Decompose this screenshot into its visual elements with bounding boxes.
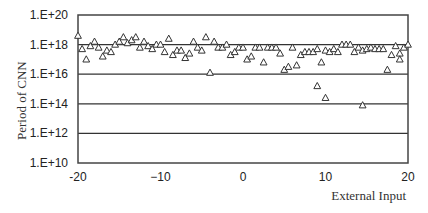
horizontal-gridlines [78, 45, 408, 134]
triangle-marker-icon [120, 34, 127, 40]
triangle-marker-icon [359, 102, 366, 108]
triangle-marker-icon [165, 35, 172, 41]
triangle-marker-icon [186, 50, 193, 56]
y-tick-label: 1.E+18 [30, 38, 69, 52]
triangle-marker-icon [293, 62, 300, 68]
triangle-marker-icon [202, 34, 209, 40]
triangle-marker-icon [314, 45, 321, 51]
triangle-marker-icon [75, 32, 82, 38]
x-tick-label: 20 [401, 170, 415, 184]
scatter-chart: 1.E+101.E+121.E+141.E+161.E+181.E+20 -20… [0, 0, 428, 213]
triangle-marker-icon [141, 38, 148, 44]
x-tick-label: 0 [240, 170, 247, 184]
x-tick-labels: -20−1001020 [69, 170, 415, 184]
triangle-marker-icon [83, 56, 90, 62]
y-tick-label: 1.E+14 [30, 97, 69, 111]
triangle-marker-icon [314, 82, 321, 88]
triangle-marker-icon [132, 34, 139, 40]
y-tick-label: 1.E+16 [30, 67, 69, 81]
y-tick-label: 1.E+20 [30, 8, 69, 22]
y-tick-label: 1.E+12 [30, 126, 69, 140]
triangle-marker-icon [396, 56, 403, 62]
plot-frame [78, 15, 408, 163]
triangle-marker-icon [388, 51, 395, 57]
y-tick-labels: 1.E+101.E+121.E+141.E+161.E+181.E+20 [30, 8, 69, 170]
y-tick-label: 1.E+10 [30, 156, 69, 170]
x-tick-label: −10 [150, 170, 171, 184]
triangle-marker-icon [91, 38, 98, 44]
triangle-marker-icon [260, 59, 267, 65]
triangle-marker-icon [285, 63, 292, 69]
triangle-marker-icon [277, 50, 284, 56]
triangle-marker-icon [161, 48, 168, 54]
triangle-marker-icon [318, 59, 325, 65]
triangle-marker-icon [79, 45, 86, 51]
triangle-marker-icon [392, 42, 399, 48]
x-tick-label: -20 [69, 170, 87, 184]
x-axis-label: External Input [331, 188, 406, 203]
x-tick-label: 10 [319, 170, 333, 184]
data-points [75, 32, 412, 108]
triangle-marker-icon [211, 38, 218, 44]
triangle-marker-icon [248, 53, 255, 59]
triangle-marker-icon [322, 94, 329, 100]
triangle-marker-icon [190, 38, 197, 44]
triangle-marker-icon [384, 66, 391, 72]
y-axis-label: Period of CNN [14, 61, 29, 140]
triangle-marker-icon [99, 53, 106, 59]
triangle-marker-icon [207, 69, 214, 75]
